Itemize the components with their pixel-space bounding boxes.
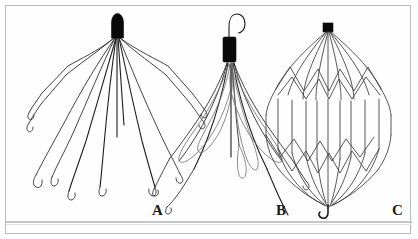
bottom-rule <box>6 221 412 223</box>
filter-device-a <box>27 14 207 201</box>
panel-label-a: A <box>152 203 163 218</box>
filter-c-lower-struts <box>266 135 391 207</box>
panel-label-c: C <box>392 203 403 218</box>
filter-c-lower-zigzag <box>266 135 379 173</box>
filter-b-retrieval-hook <box>229 14 245 38</box>
figure-root: .wire{fill:none;stroke:#2f2f2f;stroke-wi… <box>0 0 418 239</box>
filters-illustration: .wire{fill:none;stroke:#2f2f2f;stroke-wi… <box>8 7 410 219</box>
figure-plate: .wire{fill:none;stroke:#2f2f2f;stroke-wi… <box>8 7 410 219</box>
filter-device-c <box>266 23 391 218</box>
filter-c-basal-hook <box>319 205 328 218</box>
filter-c-apex-block <box>323 23 333 32</box>
filter-device-b <box>153 14 309 215</box>
filter-a-apex-cap <box>112 14 124 39</box>
bottom-rule-shadow <box>6 224 412 225</box>
filter-a-legs <box>29 38 204 191</box>
panel-label-b: B <box>276 203 287 218</box>
filter-b-apex-sleeve <box>223 37 236 62</box>
filter-c-body-struts <box>266 89 391 159</box>
filter-b-petals <box>170 63 291 178</box>
